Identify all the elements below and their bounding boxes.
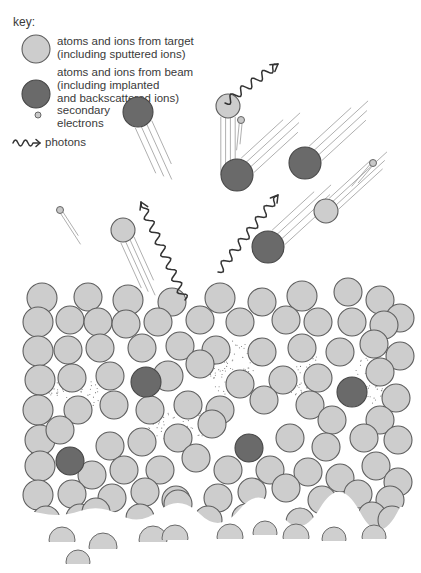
motion-streak — [237, 123, 240, 150]
vacancy-dot — [57, 391, 58, 392]
vacancy-dot — [198, 435, 199, 436]
vacancy-dot — [245, 369, 246, 370]
vacancy-dot — [218, 369, 219, 370]
vacancy-dot — [369, 385, 370, 386]
flying-beam-atom — [221, 159, 253, 191]
vacancy-dot — [382, 388, 383, 389]
target-atom — [384, 426, 412, 454]
vacancy-dot — [161, 428, 162, 429]
motion-streak — [141, 126, 164, 177]
vacancy-dot — [361, 360, 362, 361]
vacancy-dot — [375, 386, 376, 387]
vacancy-dot — [87, 395, 88, 396]
vacancy-dot — [374, 398, 375, 399]
target-atom — [226, 370, 254, 398]
legend-target-line2: (including sputtered ions) — [57, 48, 186, 60]
vacancy-dot — [51, 393, 52, 394]
vacancy-dot — [375, 399, 376, 400]
motion-streak — [240, 123, 242, 144]
vacancy-dot — [214, 368, 215, 369]
vacancy-dot — [227, 363, 228, 364]
beam-atom-legend-icon — [22, 80, 50, 108]
target-atom — [205, 283, 235, 313]
vacancy-dot — [91, 385, 92, 386]
target-atom — [54, 336, 82, 364]
vacancy-dot — [360, 361, 361, 362]
secondary-electron — [238, 117, 245, 124]
legend-beam-line1: atoms and ions from beam — [57, 66, 193, 78]
vacancy-dot — [242, 357, 243, 358]
target-atom — [272, 306, 300, 334]
vacancy-dot — [66, 397, 67, 398]
vacancy-dot — [301, 382, 302, 383]
vacancy-dot — [380, 396, 381, 397]
vacancy-dot — [163, 417, 164, 418]
vacancy-dot — [163, 421, 164, 422]
motion-streak — [309, 108, 351, 147]
target-atom — [110, 456, 138, 484]
vacancy-dot — [312, 358, 313, 359]
vacancy-dot — [93, 402, 94, 403]
vacancy-dot — [168, 413, 169, 414]
vacancy-dot — [158, 423, 159, 424]
target-atom-legend-icon — [22, 35, 50, 63]
vacancy-dot — [368, 388, 369, 389]
vacancy-dot — [315, 360, 316, 361]
vacancy-dot — [226, 366, 227, 367]
vacancy-dot — [161, 431, 162, 432]
target-atom — [23, 307, 53, 337]
secondary-electron — [57, 207, 64, 214]
motion-streak — [134, 237, 154, 280]
vacancy-dot — [219, 386, 220, 387]
legend-electron-line1: secondary — [57, 104, 110, 116]
vacancy-dot — [306, 387, 307, 388]
motion-streak — [339, 169, 383, 209]
target-atom — [186, 350, 214, 378]
vacancy-dot — [295, 394, 296, 395]
vacancy-dot — [225, 370, 226, 371]
target-atom — [334, 278, 362, 306]
target-atom — [131, 478, 159, 506]
vacancy-dot — [63, 391, 64, 392]
motion-streak — [318, 111, 367, 156]
vacancy-dot — [224, 393, 225, 394]
target-atom — [144, 308, 172, 336]
motion-streak — [336, 160, 385, 205]
vacancy-dot — [221, 374, 222, 375]
target-atom — [58, 364, 86, 392]
photon-arrowhead-icon — [270, 64, 278, 72]
vacancy-dot — [224, 368, 225, 369]
target-atom — [100, 391, 128, 419]
vacancy-dot — [215, 386, 216, 387]
vacancy-dot — [224, 381, 225, 382]
target-atom — [96, 362, 124, 390]
vacancy-dot — [243, 369, 244, 370]
vacancy-dot — [250, 362, 251, 363]
target-atom — [25, 365, 55, 395]
key-title: key: — [13, 15, 35, 29]
vacancy-dot — [223, 391, 224, 392]
flying-particles — [57, 94, 377, 263]
vacancy-dot — [300, 366, 301, 367]
target-atom — [84, 308, 112, 336]
vacancy-dot — [91, 381, 92, 382]
vacancy-dot — [381, 390, 382, 391]
target-atom — [96, 432, 124, 460]
motion-streak — [241, 120, 283, 159]
vacancy-dot — [215, 375, 216, 376]
vacancy-dot — [370, 396, 371, 397]
vacancy-dot — [222, 370, 223, 371]
vacancy-dot — [93, 397, 94, 398]
target-atom — [326, 338, 354, 366]
target-atom — [56, 306, 84, 334]
vacancy-dot — [253, 370, 254, 371]
vacancy-dot — [57, 393, 58, 394]
target-atom — [272, 474, 300, 502]
target-atom — [86, 334, 114, 362]
target-atom — [248, 338, 276, 366]
implanted-beam-atom — [235, 434, 263, 462]
motion-streak — [63, 212, 78, 236]
motion-streak — [125, 241, 148, 292]
vacancy-dot — [234, 354, 235, 355]
vacancy-dot — [367, 360, 368, 361]
